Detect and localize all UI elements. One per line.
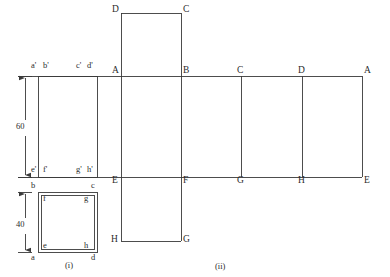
- plan-label-h: h: [84, 241, 88, 250]
- development-label-g: G: [237, 176, 244, 186]
- elevation-label-e-prime: e': [31, 165, 36, 174]
- development-top-flap: [121, 13, 181, 76]
- plan-label-d: d: [91, 253, 95, 262]
- development-label-top-c: C: [183, 5, 189, 15]
- development-view: [121, 13, 362, 241]
- development-label-d: D: [298, 66, 305, 76]
- plan-label-a: a: [31, 253, 35, 262]
- elevation-label-h-prime: h': [87, 165, 93, 174]
- development-label-bottom-g: G: [183, 235, 190, 245]
- development-bottom-flap: [121, 177, 181, 241]
- development-label-top-d: D: [112, 5, 119, 15]
- development-label-a-start: A: [112, 66, 119, 76]
- plan-label-e: e: [43, 241, 47, 250]
- development-label-bottom-h: H: [111, 235, 118, 245]
- development-label-e-start: E: [112, 176, 118, 186]
- development-label-c: C: [237, 66, 243, 76]
- dimension-value-40: 40: [16, 220, 25, 229]
- elevation-label-g-prime: g': [76, 165, 82, 174]
- elevation-view: [38, 76, 97, 177]
- elevation-label-b-prime: b': [43, 61, 49, 70]
- plan-label-f: f: [43, 194, 46, 203]
- development-label-e-end: E: [364, 176, 370, 186]
- development-label-b: B: [183, 66, 189, 76]
- plan-label-g: g: [84, 194, 88, 203]
- plan-label-c: c: [91, 181, 95, 190]
- figure-caption-i: (i): [65, 261, 73, 270]
- drawing-sheet: a' b' c' d' e' f' g' h' b c f g e h a d …: [0, 0, 390, 277]
- figure-caption-ii: (ii): [215, 262, 225, 271]
- elevation-label-c-prime: c': [76, 61, 81, 70]
- dimension-value-60: 60: [16, 122, 25, 131]
- elevation-outline: [38, 76, 97, 177]
- development-label-a-end: A: [364, 66, 371, 76]
- drawing-canvas: [0, 0, 390, 277]
- elevation-label-d-prime: d': [87, 61, 93, 70]
- development-label-f: F: [183, 176, 188, 186]
- plan-label-b: b: [31, 181, 35, 190]
- development-label-h: H: [298, 176, 305, 186]
- reference-lines: [18, 76, 121, 177]
- elevation-label-f-prime: f': [43, 165, 47, 174]
- elevation-label-a-prime: a': [31, 61, 36, 70]
